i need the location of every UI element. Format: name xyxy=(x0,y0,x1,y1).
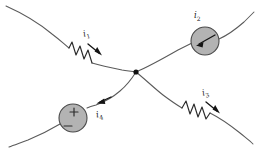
circuit-diagram: i1 i2 i3 i4 xyxy=(0,0,258,151)
wire-branch-2-outer xyxy=(219,12,254,39)
wire-branch-2-inner xyxy=(136,43,192,72)
resistor-i3 xyxy=(182,101,210,119)
current-arrow-i1 xyxy=(88,44,102,55)
circuit-canvas xyxy=(0,0,258,151)
wire-branch-1-outer xyxy=(6,6,69,48)
wire-branch-4-outer xyxy=(9,124,60,147)
junction-node-dot xyxy=(133,69,138,74)
wire-branch-3-outer xyxy=(210,113,253,144)
voltage-source-circle xyxy=(59,104,87,132)
current-arrow-i3 xyxy=(206,102,220,113)
wire-branch-4-inner xyxy=(87,72,136,108)
current-label-i4: i4 xyxy=(95,109,103,119)
wire-branch-3-inner xyxy=(136,72,182,108)
current-arrow-i4 xyxy=(97,97,112,104)
current-label-i2: i2 xyxy=(194,11,201,20)
wire-branch-1-inner xyxy=(92,63,136,72)
